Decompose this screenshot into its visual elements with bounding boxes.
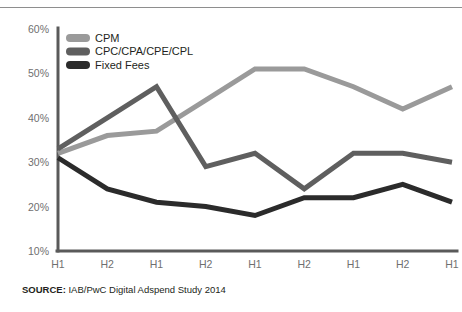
source-text: IAB/PwC Digital Adspend Study 2014	[66, 284, 226, 295]
y-axis-tick-label: 10%	[28, 245, 49, 257]
series-line-fixed-fees	[58, 158, 452, 216]
y-axis-tick-label: 30%	[28, 156, 49, 168]
legend-label: CPC/CPA/CPE/CPL	[95, 45, 193, 57]
legend-label: Fixed Fees	[95, 59, 150, 71]
x-axis-tick-label-period: H2	[199, 258, 213, 270]
legend-label: CPM	[95, 32, 119, 44]
x-axis-tick-label-period: H1	[51, 258, 65, 270]
legend-swatch	[66, 48, 90, 56]
y-axis-tick-label: 60%	[28, 23, 49, 35]
legend-swatch	[66, 34, 90, 42]
line-chart: 60%50%40%30%20%10%H12010H22010H12011H220…	[0, 14, 462, 272]
x-axis-tick-label-period: H2	[396, 258, 410, 270]
top-divider-rule	[0, 7, 462, 8]
legend-swatch	[66, 61, 90, 69]
source-label: SOURCE:	[22, 284, 66, 295]
x-axis-tick-label-period: H1	[150, 258, 164, 270]
y-axis-tick-label: 40%	[28, 112, 49, 124]
x-axis-tick-label-period: H1	[347, 258, 361, 270]
x-axis-tick-label-period: H2	[298, 258, 312, 270]
source-caption: SOURCE: IAB/PwC Digital Adspend Study 20…	[22, 284, 226, 295]
chart-canvas: 60%50%40%30%20%10%H12010H22010H12011H220…	[0, 14, 462, 272]
x-axis-tick-label-period: H1	[248, 258, 262, 270]
y-axis-tick-label: 20%	[28, 201, 49, 213]
y-axis-tick-label: 50%	[28, 67, 49, 79]
x-axis-tick-label-period: H1	[445, 258, 459, 270]
x-axis-tick-label-period: H2	[101, 258, 115, 270]
